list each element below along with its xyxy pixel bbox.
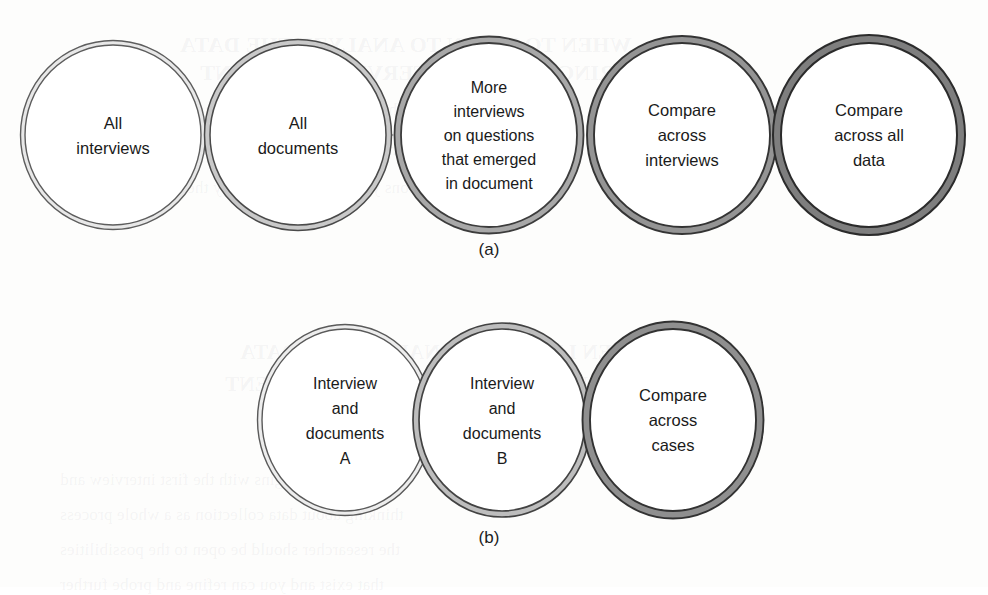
node-label-line: and <box>489 400 516 417</box>
panel-b: InterviewanddocumentsAInterviewanddocume… <box>258 322 764 548</box>
node-label-line: documents <box>258 139 339 157</box>
flow-node[interactable]: Compareacross alldata <box>773 35 965 235</box>
node-label-line: data <box>853 151 886 169</box>
flow-node[interactable]: Moreinterviewson questionsthat emergedin… <box>395 37 584 234</box>
panel-a: AllinterviewsAlldocumentsMoreinterviewso… <box>21 35 966 259</box>
node-label-line: All <box>289 114 307 132</box>
node-label-line: documents <box>306 425 384 442</box>
node-label-line: interviews <box>76 139 149 157</box>
node-fill <box>210 45 386 225</box>
node-label-line: Compare <box>648 101 716 119</box>
node-label-line: across <box>649 411 698 429</box>
node-label-line: in document <box>445 175 533 192</box>
flow-node[interactable]: InterviewanddocumentsB <box>413 323 591 517</box>
node-label-line: across <box>658 126 707 144</box>
node-label-line: B <box>497 450 508 467</box>
node-label-line: interviews <box>453 103 524 120</box>
flow-node[interactable]: Allinterviews <box>21 41 206 230</box>
flow-node[interactable]: Alldocuments <box>205 40 392 231</box>
flow-node[interactable]: Compareacrosscases <box>583 322 764 519</box>
node-fill <box>262 329 428 511</box>
node-label-line: Interview <box>313 375 377 392</box>
node-label-line: documents <box>463 425 541 442</box>
node-label-line: on questions <box>444 127 535 144</box>
node-label-line: More <box>471 79 508 96</box>
node-label-line: and <box>332 400 359 417</box>
node-fill <box>25 45 201 225</box>
node-label-line: that emerged <box>442 151 536 168</box>
node-label-line: A <box>340 450 351 467</box>
flow-node[interactable]: InterviewanddocumentsA <box>258 325 433 516</box>
node-label-line: Interview <box>470 375 534 392</box>
node-label-line: Compare <box>835 101 903 119</box>
node-fill <box>419 329 585 511</box>
node-label-line: Compare <box>639 386 707 404</box>
node-label-line: interviews <box>645 151 718 169</box>
node-label-line: cases <box>651 436 694 454</box>
flow-node[interactable]: Compareacrossinterviews <box>587 36 777 234</box>
panel-caption: (b) <box>479 528 500 547</box>
node-label-line: across all <box>834 126 904 144</box>
panel-caption: (a) <box>479 240 500 259</box>
node-label-line: All <box>104 114 122 132</box>
